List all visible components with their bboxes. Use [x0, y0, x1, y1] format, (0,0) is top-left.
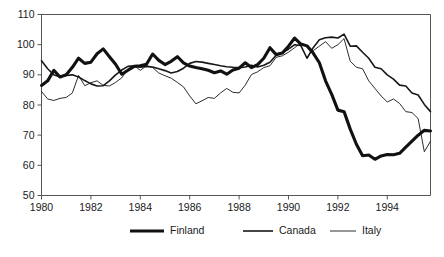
x-tick-label: 1982: [79, 201, 103, 213]
x-tick-label: 1992: [326, 201, 350, 213]
y-tick-label: 60: [23, 159, 35, 171]
x-tick-label: 1988: [227, 201, 251, 213]
chart-background: [0, 0, 444, 257]
legend-label-canada: Canada: [279, 224, 316, 236]
y-tick-label: 70: [23, 129, 35, 141]
x-tick-label: 1980: [30, 201, 54, 213]
y-tick-label: 80: [23, 99, 35, 111]
y-tick-label: 90: [23, 68, 35, 80]
x-tick-label: 1984: [129, 201, 153, 213]
legend-label-italy: Italy: [362, 224, 382, 236]
y-tick-label: 110: [18, 8, 35, 20]
x-tick-label: 1994: [376, 201, 400, 213]
x-tick-label: 1986: [178, 201, 202, 213]
y-tick-label: 50: [23, 189, 35, 201]
legend-label-finland: Finland: [170, 224, 205, 236]
line-chart-figure: 5060708090100110 19801982198419861988199…: [0, 0, 444, 257]
y-tick-label: 100: [17, 38, 35, 50]
x-tick-label: 1990: [277, 201, 301, 213]
chart-canvas: 5060708090100110 19801982198419861988199…: [0, 0, 444, 257]
